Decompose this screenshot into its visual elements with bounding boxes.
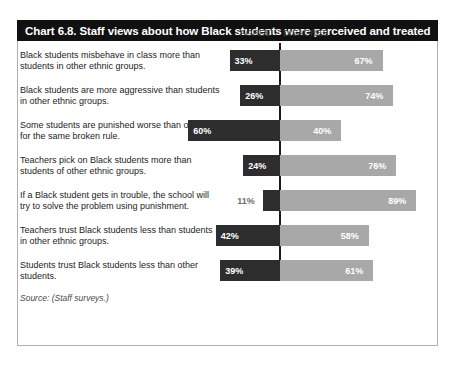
chart-row-bars: 24%76%	[0, 148, 419, 183]
bar-disagree: 61%	[280, 260, 373, 281]
bar-agree: 11%	[263, 190, 280, 211]
bar-disagree: 89%	[280, 190, 416, 211]
bar-agree: 33%	[230, 50, 280, 71]
bar-disagree: 76%	[280, 155, 396, 176]
bar-disagree: 40%	[280, 120, 341, 141]
column-header-disagree: DISAGREE	[283, 28, 329, 38]
bar-agree-value: 33%	[230, 56, 253, 66]
chart-row-bars: 42%58%	[0, 218, 419, 253]
chart-row: If a Black student gets in trouble, the …	[0, 183, 419, 218]
chart-row-bars: 33%67%	[0, 43, 419, 78]
chart-row: Students trust Black students less than …	[0, 253, 419, 288]
bar-agree-value: 26%	[240, 91, 263, 101]
bar-agree: 60%	[188, 120, 280, 141]
bar-disagree: 58%	[280, 225, 369, 246]
chart-plot-area: AGREE DISAGREE Black students misbehave …	[0, 21, 419, 325]
chart-row: Some students are punished worse than ot…	[0, 113, 419, 148]
bar-agree: 39%	[220, 260, 280, 281]
chart-row-bars: 60%40%	[0, 113, 419, 148]
chart-row: Black students are more aggressive than …	[0, 78, 419, 113]
bar-disagree-value: 74%	[365, 91, 393, 101]
bar-disagree-value: 58%	[341, 231, 369, 241]
bar-agree-value: 60%	[188, 126, 211, 136]
column-header-agree: AGREE	[240, 28, 271, 38]
bar-disagree-value: 89%	[388, 196, 416, 206]
bar-disagree-value: 40%	[313, 126, 341, 136]
chart-row-bars: 11%89%	[0, 183, 419, 218]
chart-row-bars: 26%74%	[0, 78, 419, 113]
bar-disagree-value: 67%	[354, 56, 382, 66]
bar-agree-value: 11%	[237, 196, 255, 206]
bar-agree-value: 42%	[216, 231, 239, 241]
chart-row: Teachers pick on Black students more tha…	[0, 148, 419, 183]
bar-agree-value: 24%	[243, 161, 266, 171]
bar-disagree: 74%	[280, 85, 393, 106]
bar-agree: 26%	[240, 85, 280, 106]
source-note: Source: (Staff surveys.)	[20, 293, 109, 303]
chart-row: Black students misbehave in class more t…	[0, 43, 419, 78]
bar-disagree-value: 76%	[368, 161, 396, 171]
bar-agree: 42%	[216, 225, 280, 246]
bar-agree-value: 39%	[220, 266, 243, 276]
bar-disagree-value: 61%	[345, 266, 373, 276]
bar-disagree: 67%	[280, 50, 383, 71]
chart-row: Teachers trust Black students less than …	[0, 218, 419, 253]
bar-agree: 24%	[243, 155, 280, 176]
chart-row-bars: 39%61%	[0, 253, 419, 288]
